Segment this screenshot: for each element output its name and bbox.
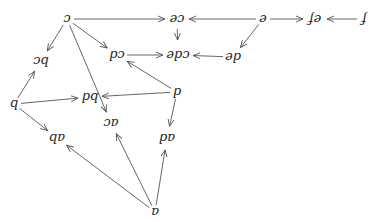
node-bc: bc <box>33 55 49 68</box>
arrow-de-to-cde <box>193 56 223 57</box>
arrow-d-to-bd <box>102 92 170 96</box>
arrow-c-to-bc <box>47 25 63 51</box>
node-e: e <box>259 13 267 26</box>
arrow-d-to-ad <box>170 99 176 126</box>
node-a: a <box>151 206 159 219</box>
diagram-canvas: c ce e ef f bc cd cde de b bd d ac ab ad… <box>0 0 377 222</box>
node-d: d <box>173 86 181 99</box>
node-cde: cde <box>166 49 189 62</box>
arrow-e-to-de <box>240 24 258 47</box>
arrow-a-to-ac <box>116 134 152 206</box>
node-ab: ab <box>49 132 65 145</box>
arrow-a-to-ad <box>156 150 165 205</box>
node-ac: ac <box>103 117 118 130</box>
arrow-b-to-ab <box>19 108 47 130</box>
arrow-d-to-cd <box>127 61 171 88</box>
node-de: de <box>225 51 241 64</box>
arrow-b-to-bd <box>21 98 78 103</box>
arrow-layer <box>0 0 377 222</box>
node-b: b <box>10 98 18 111</box>
node-c: c <box>63 13 70 26</box>
node-ef: ef <box>309 13 322 26</box>
node-cd: cd <box>109 49 125 62</box>
node-ad: ad <box>159 132 175 145</box>
arrow-b-to-bc <box>18 71 35 98</box>
node-f: f <box>362 13 367 26</box>
node-bd: bd <box>82 91 99 104</box>
node-ce: ce <box>170 13 185 26</box>
